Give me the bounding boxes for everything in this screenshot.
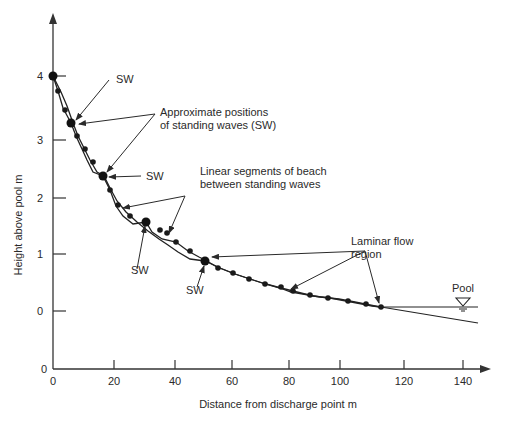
y-tick-label: 0 — [37, 305, 43, 317]
x-tick-label: 80 — [283, 375, 295, 387]
x-tick-label: 20 — [108, 375, 120, 387]
y-tick-label: 3 — [37, 134, 43, 146]
x-tick-label: 100 — [331, 375, 349, 387]
approx-positions-label-2: of standing waves (SW) — [160, 119, 276, 131]
standing-wave-points — [49, 72, 210, 266]
x-axis-label: Distance from discharge point m — [199, 398, 357, 410]
x-axis-arrow-icon — [480, 365, 491, 373]
x-tick-label: 60 — [226, 375, 238, 387]
y-axis-arrow-icon — [49, 13, 57, 24]
laminar-flow-label-2: region — [351, 248, 382, 260]
y-tick-label: 1 — [37, 248, 43, 260]
x-tick-label: 120 — [395, 375, 413, 387]
x-tick-label: 140 — [454, 375, 472, 387]
x-tick-label: 40 — [169, 375, 181, 387]
y-axis: 4 3 2 1 0 0 Height above pool m — [12, 13, 66, 375]
x-axis: 0 20 40 60 80 100 120 140 Distance from … — [50, 360, 491, 410]
approx-positions-label-1: Approximate positions — [160, 106, 269, 118]
sw-label: SW — [116, 73, 134, 85]
sw-label: SW — [131, 264, 149, 276]
pool-label: Pool — [452, 282, 474, 294]
x-tick-label: 0 — [50, 375, 56, 387]
beach-profile-chart: 4 3 2 1 0 0 Height above pool m 0 20 40 … — [0, 0, 505, 423]
y-tick-label: 2 — [37, 192, 43, 204]
linear-segments-label-2: between standing waves — [200, 178, 321, 190]
laminar-flow-label-1: Laminar flow — [351, 235, 413, 247]
water-level-triangle-icon — [456, 298, 470, 306]
y-axis-label: Height above pool m — [12, 175, 24, 276]
linear-segments-label-1: Linear segments of beach — [200, 165, 327, 177]
sw-label: SW — [186, 284, 204, 296]
y-tick-label: 4 — [37, 70, 43, 82]
y-tick-label: 0 — [41, 363, 47, 375]
sw-label: SW — [146, 170, 164, 182]
